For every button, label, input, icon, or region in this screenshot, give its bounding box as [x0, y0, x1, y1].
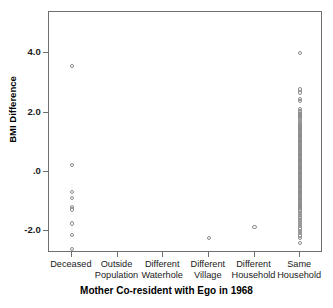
data-point [298, 99, 302, 103]
data-point [207, 236, 211, 240]
data-point [298, 241, 302, 245]
data-point [70, 64, 74, 68]
plot-area [48, 11, 322, 252]
data-point [70, 196, 74, 200]
data-point [298, 51, 302, 55]
data-point [252, 225, 256, 229]
data-point [70, 247, 74, 251]
data-point [70, 221, 74, 225]
x-axis-tick-label: SameHousehold [268, 259, 330, 280]
y-axis-tick-label: .0 [0, 165, 41, 176]
x-axis-tick [254, 252, 255, 257]
data-point [70, 207, 74, 211]
x-axis-tick [162, 252, 163, 257]
y-axis-tick-label: -2.0 [0, 224, 41, 235]
y-axis-tick [43, 171, 48, 172]
data-point [70, 233, 74, 237]
x-axis-title: Mother Co-resident with Ego in 1968 [0, 285, 333, 296]
y-axis-tick [43, 112, 48, 113]
y-axis-tick-label: 2.0 [0, 106, 41, 117]
x-axis-tick [71, 252, 72, 257]
data-point [298, 90, 302, 94]
x-axis-tick [299, 252, 300, 257]
x-axis-tick [117, 252, 118, 257]
data-point [70, 163, 74, 167]
scatter-plot: BMI Difference 4.02.0.0-2.0 DeceasedOuts… [0, 0, 333, 308]
y-axis-tick [43, 230, 48, 231]
x-axis-tick [208, 252, 209, 257]
y-axis-tick-label: 4.0 [0, 46, 41, 57]
y-axis-tick [43, 52, 48, 53]
data-point [298, 236, 302, 240]
data-points-layer [49, 12, 321, 251]
data-point [70, 190, 74, 194]
